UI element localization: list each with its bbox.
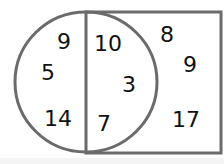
intersection-value-3: 7	[97, 111, 111, 136]
circle-only-value-2: 5	[41, 60, 55, 85]
rectangle-only-value-3: 17	[172, 107, 200, 132]
intersection-value-1: 10	[94, 31, 122, 56]
rectangle-only-value-1: 8	[160, 22, 174, 47]
intersection-value-2: 3	[122, 72, 136, 97]
circle-only-value-1: 9	[57, 29, 71, 54]
rectangle-only-value-2: 9	[183, 52, 197, 77]
venn-diagram: 9 5 14 10 3 7 8 9 17	[0, 0, 224, 164]
circle-only-value-3: 14	[44, 106, 72, 131]
